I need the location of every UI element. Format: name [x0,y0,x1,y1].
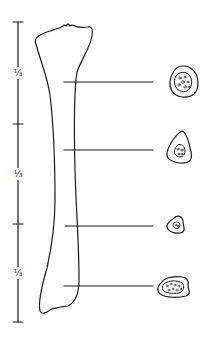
scale-label-proximal-third: ⅓ [12,67,24,79]
scale-label-middle-third: ⅓ [12,168,24,180]
cross-section-4 [158,277,189,298]
scale-label-distal-third: ⅓ [12,267,24,279]
bone-outline [35,24,92,313]
cross-section-3 [167,216,184,233]
cross-section-1 [170,66,198,97]
cross-section-2 [167,131,192,163]
bone-diagram: ⅓ ⅓ ⅓ [0,0,210,341]
diagram-canvas [0,0,210,341]
